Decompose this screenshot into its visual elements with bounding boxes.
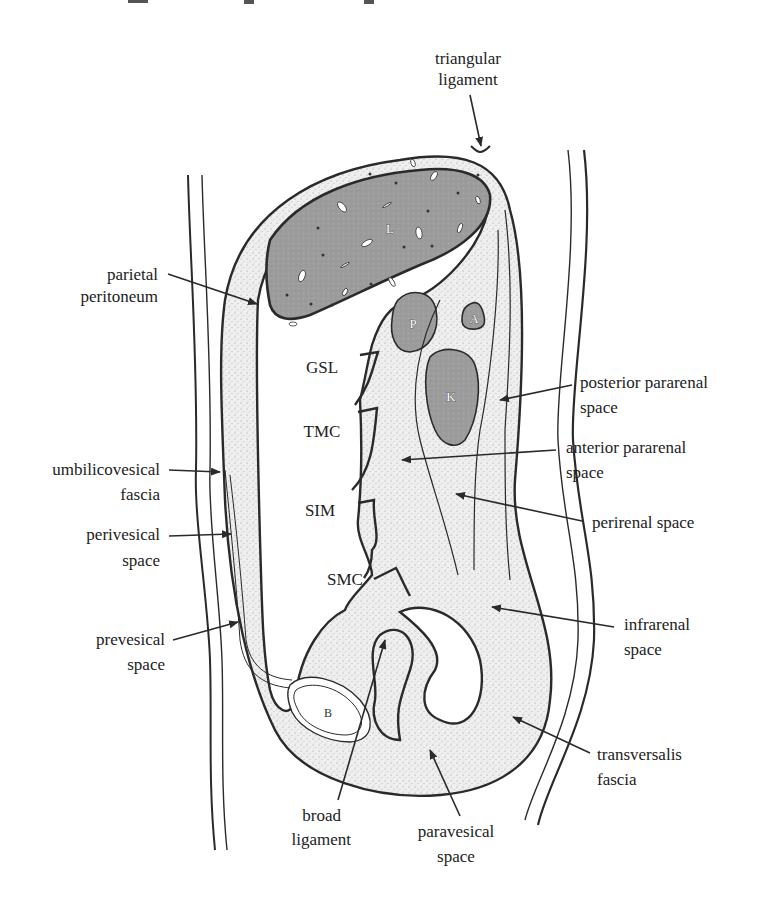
pancreas-label: P [409,316,416,331]
label-posterior-pararenal-space: posterior pararenal space [500,373,708,417]
svg-text:infrarenal: infrarenal [624,615,690,634]
svg-text:prevesical: prevesical [96,630,165,649]
tmc-label: TMC [304,422,341,441]
label-triangular-ligament: triangular ligament [435,49,501,146]
triangular-ligament-notch [471,146,490,152]
left-abdominal-wall [188,175,227,850]
svg-text:space: space [127,655,165,674]
svg-text:paravesical: paravesical [418,822,495,841]
smc-label: SMC [327,570,363,589]
svg-text:space: space [122,551,160,570]
svg-text:space: space [566,463,604,482]
sim-label: SIM [305,501,335,520]
svg-text:fascia: fascia [120,485,160,504]
kidney-label: K [446,389,456,404]
adrenal-gland: A [462,303,485,330]
svg-text:ligament: ligament [438,70,498,89]
svg-text:peritoneum: peritoneum [81,287,158,306]
svg-text:space: space [580,398,618,417]
svg-text:broad: broad [302,806,341,825]
liver-label: L [386,221,394,236]
gsl-label: GSL [306,358,338,377]
adrenal-label: A [469,311,479,326]
svg-text:parietal: parietal [107,265,158,284]
svg-text:perirenal space: perirenal space [592,513,694,532]
peritoneal-spaces-diagram: L P A K B GSL TMC SIM SMC [0,0,768,912]
svg-text:space: space [437,847,475,866]
bladder-label: B [324,706,332,720]
svg-text:fascia: fascia [597,770,637,789]
svg-text:triangular: triangular [435,49,501,68]
svg-text:ligament: ligament [292,830,352,849]
svg-text:transversalis: transversalis [597,745,682,764]
svg-text:space: space [624,640,662,659]
svg-text:perivesical: perivesical [86,525,160,544]
label-perivesical-space: perivesical space [86,525,231,570]
cropped-title-fragment [128,0,374,4]
svg-text:anterior pararenal: anterior pararenal [566,438,687,457]
label-prevesical-space: prevesical space [96,622,238,674]
svg-text:umbilicovesical: umbilicovesical [52,460,160,479]
svg-text:posterior pararenal: posterior pararenal [580,373,708,392]
